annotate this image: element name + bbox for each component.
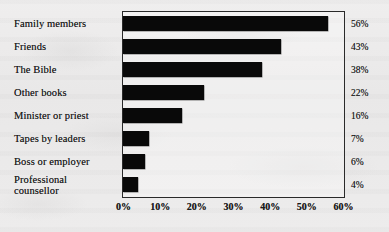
bar — [123, 16, 328, 31]
plot-area-frame — [122, 11, 345, 198]
bar — [123, 85, 204, 100]
x-axis-tick-label: 30% — [224, 201, 244, 212]
bar-value-label: 16% — [351, 111, 368, 121]
category-label: The Bible — [14, 64, 134, 76]
bar-value-label: 7% — [351, 134, 364, 144]
x-axis-tick-label: 0% — [116, 201, 131, 212]
bar-value-label: 4% — [351, 180, 364, 190]
category-label: Friends — [14, 41, 134, 53]
x-axis-tick-label: 10% — [150, 201, 170, 212]
bar — [123, 154, 145, 169]
bar-value-label: 22% — [351, 88, 368, 98]
category-label: Other books — [14, 87, 134, 99]
bar — [123, 39, 281, 54]
category-label: Professional counsellor — [14, 173, 134, 196]
bar — [123, 131, 149, 146]
horizontal-bar-chart: Family members Friends The Bible Other b… — [0, 0, 389, 232]
category-label: Minister or priest — [14, 110, 134, 122]
bar — [123, 177, 138, 192]
x-axis-tick-label: 20% — [187, 201, 207, 212]
bar-value-label: 38% — [351, 65, 368, 75]
bar-value-label: 6% — [351, 157, 364, 167]
bar — [123, 62, 262, 77]
category-label: Boss or employer — [14, 156, 134, 168]
x-axis-tick-label: 50% — [297, 201, 317, 212]
x-axis-tick-label: 60% — [333, 201, 353, 212]
category-label: Family members — [14, 18, 134, 30]
bar-value-label: 43% — [351, 42, 368, 52]
bar — [123, 108, 182, 123]
bar-value-label: 56% — [351, 19, 368, 29]
x-axis-tick-label: 40% — [260, 201, 280, 212]
category-label: Tapes by leaders — [14, 133, 134, 145]
